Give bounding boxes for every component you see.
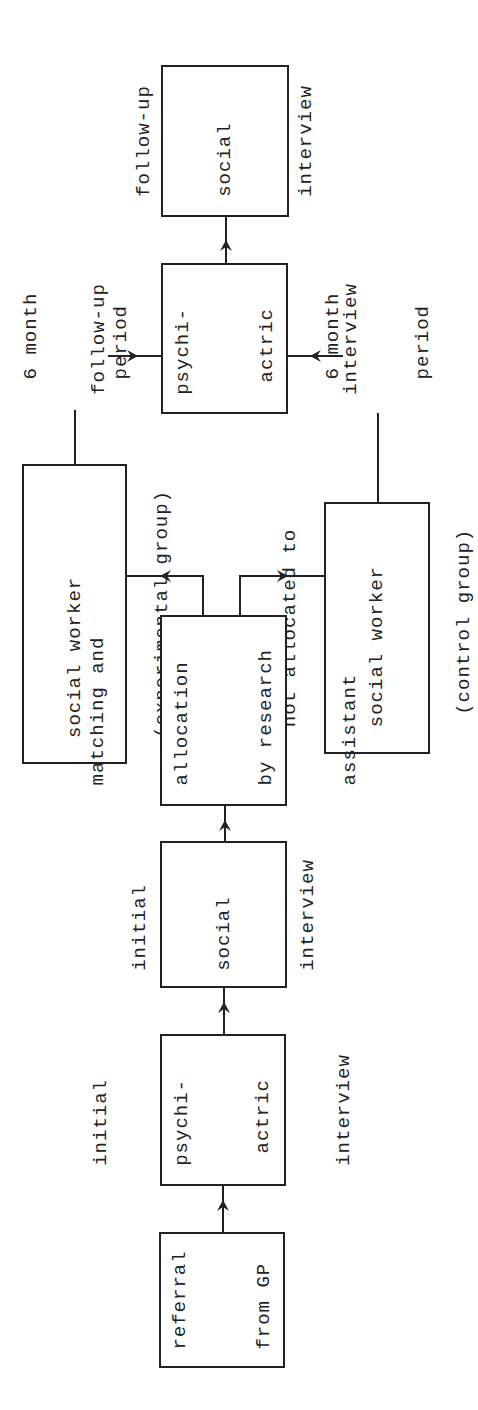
label-six-month-period-right: 6 month period [258,293,478,380]
node-label: matching and allocation by research assi… [28,636,420,785]
label-six-month-period-left: 6 month period [0,293,196,380]
node-label: follow-up social interview [77,85,374,197]
arrowhead-icon [220,240,232,251]
node-initial-psychiatric-interview: initial psychi- actric interview [160,1034,286,1186]
node-label: referral from GP [110,1250,334,1349]
node-label: initial social interview [70,859,378,971]
node-matching-allocation: matching and allocation by research assi… [160,615,287,806]
node-initial-social-interview: initial social interview [160,841,287,988]
arrowhead-icon [217,1200,229,1211]
node-followup-social-interview: follow-up social interview [161,65,289,217]
arrowhead-icon [219,820,231,831]
arrowhead-icon [218,1002,230,1013]
node-referral-from-gp: referral from GP [159,1232,285,1368]
node-label: initial psychi- actric interview [34,1054,412,1166]
